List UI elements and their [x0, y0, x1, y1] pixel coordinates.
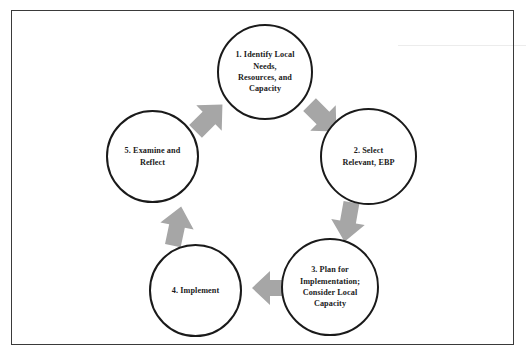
process-node-5-label: 5. Examine and Reflect [117, 145, 189, 168]
process-node-2: 2. Select Relevant, EBP [320, 108, 417, 205]
cyclical-process-diagram: 1. Identify Local Needs, Resources, and … [0, 0, 526, 356]
process-node-1: 1. Identify Local Needs, Resources, and … [217, 24, 313, 120]
process-node-4-label: 4. Implement [164, 285, 228, 296]
process-node-4: 4. Implement [149, 244, 242, 337]
page-canvas: 1. Identify Local Needs, Resources, and … [0, 0, 526, 356]
process-node-1-label: 1. Identify Local Needs, Resources, and … [227, 49, 302, 94]
process-node-3: 3. Plan for Implementation; Consider Loc… [281, 238, 379, 336]
process-node-2-label: 2. Select Relevant, EBP [334, 145, 402, 168]
arrow-up-icon [155, 203, 199, 249]
process-node-5: 5. Examine and Reflect [106, 110, 199, 203]
process-node-3-label: 3. Plan for Implementation; Consider Loc… [292, 264, 368, 309]
